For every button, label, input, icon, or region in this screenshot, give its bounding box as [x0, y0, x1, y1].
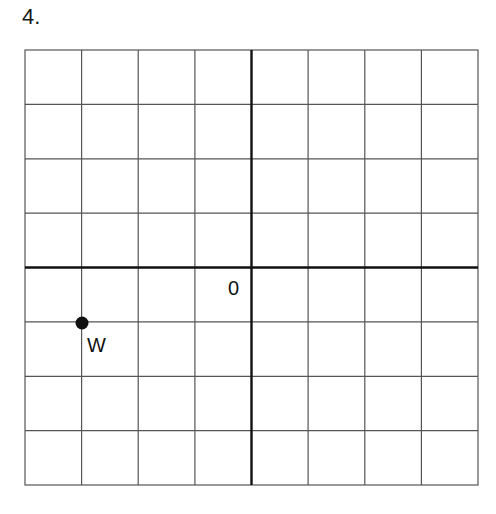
coordinate-grid [0, 0, 496, 514]
origin-label: 0 [228, 277, 239, 300]
point-w-label: W [87, 334, 106, 357]
axes [25, 50, 478, 485]
point-w-marker [76, 317, 89, 330]
